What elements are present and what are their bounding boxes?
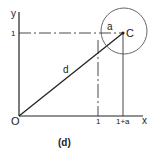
distance-line-d [19,33,123,116]
y-axis-label: y [11,8,16,19]
origin-label: O [11,115,20,127]
x-tick-1-label: 1 [96,117,101,126]
x-tick-1plusa-label: 1+a [116,117,130,126]
figure-caption: (d) [58,137,71,148]
geometry-diagram: y 1 a C d O 1 1+a x (d) [0,0,158,154]
point-c [121,31,124,34]
y-tick-label: 1 [11,29,16,38]
point-c-label: C [126,27,134,39]
distance-label: d [63,64,69,75]
x-axis-label: x [142,115,147,126]
radius-label: a [107,21,113,32]
